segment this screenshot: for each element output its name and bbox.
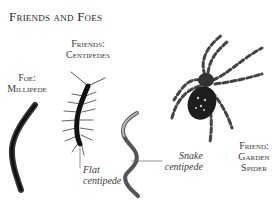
millipede-illustration — [12, 105, 35, 190]
snake-centipede-illustration — [123, 113, 162, 196]
illustration — [0, 0, 275, 200]
garden-spider-illustration — [172, 35, 262, 142]
flat-centipede-illustration — [62, 72, 105, 168]
